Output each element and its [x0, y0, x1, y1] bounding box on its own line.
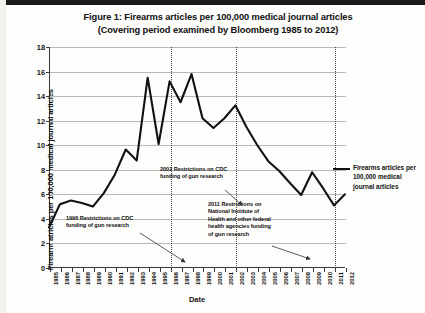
x-tick-label-2008: 2008 — [305, 272, 311, 285]
title-line-2: (Covering period examined by Bloomberg 1… — [28, 24, 408, 37]
y-tick-label-10: 10 — [28, 141, 45, 150]
x-tick-1996 — [171, 268, 172, 272]
x-tick-1993 — [138, 268, 139, 272]
x-tick-2003 — [247, 268, 248, 272]
y-tick-label-6: 6 — [28, 190, 45, 199]
x-tick-label-1994: 1994 — [151, 272, 157, 285]
annotation-2011: 2011 Restrictions on National Institute … — [208, 201, 274, 238]
x-tick-2009 — [313, 268, 314, 272]
x-tick-label-1991: 1991 — [118, 272, 124, 285]
x-tick-1994 — [149, 268, 150, 272]
x-tick-label-2001: 2001 — [228, 272, 234, 285]
annotation-2002: 2002 Restrictions on CDC funding of gun … — [160, 166, 230, 181]
x-tick-label-2005: 2005 — [272, 272, 278, 285]
x-tick-label-1992: 1992 — [129, 272, 135, 285]
x-tick-1995 — [160, 268, 161, 272]
x-tick-1988 — [83, 268, 84, 272]
x-tick-2007 — [291, 268, 292, 272]
x-tick-label-1990: 1990 — [107, 272, 113, 285]
x-tick-2001 — [225, 268, 226, 272]
x-tick-label-1985: 1985 — [53, 272, 59, 285]
x-tick-1999 — [203, 268, 204, 272]
y-tick-label-8: 8 — [28, 165, 45, 174]
y-tick-label-14: 14 — [28, 92, 45, 101]
x-tick-1992 — [127, 268, 128, 272]
x-tick-1985 — [50, 268, 51, 272]
x-tick-label-2002: 2002 — [239, 272, 245, 285]
x-tick-label-2004: 2004 — [261, 272, 267, 285]
y-tick-label-16: 16 — [28, 67, 45, 76]
x-tick-2002 — [236, 268, 237, 272]
x-tick-label-1986: 1986 — [64, 272, 70, 285]
annotation-1996: 1996 Restrictions on CDC funding of gun … — [66, 215, 150, 230]
x-tick-label-1989: 1989 — [96, 272, 102, 285]
x-tick-label-2003: 2003 — [250, 272, 256, 285]
x-tick-1989 — [94, 268, 95, 272]
y-tick-label-12: 12 — [28, 116, 45, 125]
x-tick-2012 — [346, 268, 347, 272]
x-tick-label-1999: 1999 — [206, 272, 212, 285]
x-tick-1990 — [105, 268, 106, 272]
x-tick-label-2011: 2011 — [338, 272, 344, 285]
data-series-line — [49, 47, 345, 268]
x-axis-title: Date — [49, 295, 345, 304]
figure-chart: Figure 1: Firearms articles per 100,000 … — [0, 0, 425, 313]
x-tick-2010 — [324, 268, 325, 272]
x-tick-label-1995: 1995 — [162, 272, 168, 285]
x-tick-label-2012: 2012 — [349, 272, 355, 285]
title-line-1: Figure 1: Firearms articles per 100,000 … — [28, 11, 408, 24]
x-tick-2005 — [269, 268, 270, 272]
x-tick-label-1997: 1997 — [184, 272, 190, 285]
x-tick-label-1993: 1993 — [140, 272, 146, 285]
y-tick-label-0: 0 — [28, 264, 45, 273]
y-tick-label-4: 4 — [28, 214, 45, 223]
x-tick-1998 — [193, 268, 194, 272]
page-title: Figure 1: Firearms articles per 100,000 … — [28, 11, 408, 36]
x-tick-2011 — [335, 268, 336, 272]
x-tick-1997 — [182, 268, 183, 272]
x-tick-label-2007: 2007 — [294, 272, 300, 285]
x-tick-2008 — [302, 268, 303, 272]
x-tick-2004 — [258, 268, 259, 272]
legend-item-label: Firearms articles per 100,000 medical jo… — [353, 163, 421, 191]
legend-swatch-line — [333, 168, 350, 170]
y-tick-label-18: 18 — [28, 43, 45, 52]
y-tick-label-2: 2 — [28, 239, 45, 248]
x-tick-1991 — [116, 268, 117, 272]
x-tick-2000 — [214, 268, 215, 272]
x-tick-label-2010: 2010 — [327, 272, 333, 285]
x-tick-label-2000: 2000 — [217, 272, 223, 285]
x-tick-1986 — [61, 268, 62, 272]
x-tick-2006 — [280, 268, 281, 272]
x-tick-label-1988: 1988 — [85, 272, 91, 285]
x-tick-label-1998: 1998 — [195, 272, 201, 285]
x-tick-label-2009: 2009 — [316, 272, 322, 285]
x-tick-1987 — [72, 268, 73, 272]
x-tick-label-1996: 1996 — [173, 272, 179, 285]
x-tick-label-1987: 1987 — [75, 272, 81, 285]
x-tick-label-2006: 2006 — [283, 272, 289, 285]
